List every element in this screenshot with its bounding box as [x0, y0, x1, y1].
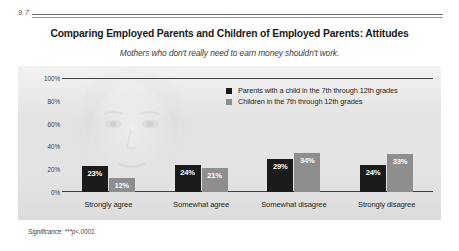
bar-value-label: 34% — [294, 156, 320, 165]
legend-item-children: Children in the 7th through 12th grades — [226, 97, 398, 106]
bar-value-label: 24% — [175, 168, 201, 177]
bar-children-somewhat-agree: 21% — [202, 168, 228, 192]
chart-legend: Parents with a child in the 7th through … — [226, 86, 398, 108]
figure-container: 9.7 Comparing Employed Parents and Child… — [0, 0, 459, 251]
bar-parents-somewhat-agree: 24% — [175, 165, 201, 192]
significance-note: Significance: ***p<.0001 — [28, 228, 94, 235]
x-label-somewhat-agree: Somewhat agree — [155, 200, 248, 209]
bar-value-label: 21% — [202, 171, 228, 180]
figure-subtitle: Mothers who don't really need to earn mo… — [0, 48, 459, 58]
x-label-strongly-disagree: Strongly disagree — [340, 200, 433, 209]
y-tick-60: 60% — [48, 120, 61, 127]
bar-group-somewhat-agree: 24% 21% — [175, 78, 228, 192]
x-axis-labels: Strongly agree Somewhat agree Somewhat d… — [62, 196, 433, 212]
y-tick-40: 40% — [48, 143, 61, 150]
legend-label-children: Children in the 7th through 12th grades — [238, 97, 362, 106]
y-tick-80: 80% — [48, 97, 61, 104]
x-label-somewhat-disagree: Somewhat disagree — [248, 200, 341, 209]
bar-children-somewhat-disagree: 34% — [294, 153, 320, 192]
bar-parents-somewhat-disagree: 29% — [267, 159, 293, 192]
legend-swatch-icon — [226, 99, 232, 105]
bar-parents-strongly-agree: 23% — [82, 166, 108, 192]
legend-item-parents: Parents with a child in the 7th through … — [226, 86, 398, 95]
legend-label-parents: Parents with a child in the 7th through … — [238, 86, 398, 95]
bar-value-label: 29% — [267, 162, 293, 171]
x-label-strongly-agree: Strongly agree — [62, 200, 155, 209]
bar-value-label: 24% — [360, 168, 386, 177]
y-tick-100: 100% — [44, 75, 60, 82]
bar-group-strongly-agree: 23% 12% — [82, 78, 135, 192]
y-tick-0: 0% — [51, 189, 60, 196]
figure-number: 9.7 — [18, 8, 29, 17]
bar-children-strongly-agree: 12% — [109, 178, 135, 192]
chart-panel: 100% 80% 60% 40% 20% 0% 23% 12% — [18, 66, 441, 220]
bar-children-strongly-disagree: 33% — [387, 154, 413, 192]
figure-title: Comparing Employed Parents and Children … — [0, 28, 459, 39]
y-tick-20: 20% — [48, 166, 61, 173]
legend-swatch-icon — [226, 88, 232, 94]
bar-parents-strongly-disagree: 24% — [360, 165, 386, 192]
bar-value-label: 12% — [109, 181, 135, 190]
header-rule — [32, 14, 443, 18]
bar-value-label: 23% — [82, 169, 108, 178]
bar-value-label: 33% — [387, 157, 413, 166]
y-axis-labels: 100% 80% 60% 40% 20% 0% — [32, 78, 60, 192]
